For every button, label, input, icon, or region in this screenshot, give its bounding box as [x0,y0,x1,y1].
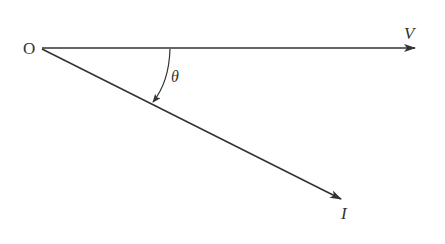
origin-label: O [23,39,35,58]
angle-arc [153,49,170,102]
current-vector [42,49,341,199]
current-label: I [340,204,348,223]
angle-label: θ [171,68,179,85]
voltage-label: V [404,24,417,43]
phasor-diagram: O V I θ [0,0,445,244]
